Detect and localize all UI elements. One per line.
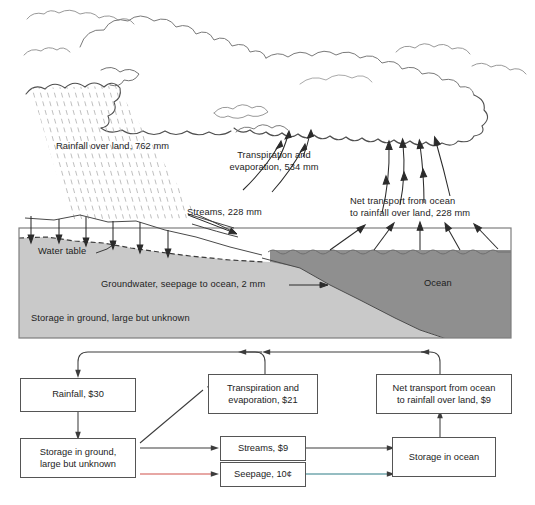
flow-box-net-transport-label: Net transport from ocean to rainfall ove…	[377, 383, 511, 407]
flow-box-transpiration-evaporation-label: Transpiration and evaporation, $21	[209, 383, 317, 407]
arrow-storage-to-transp	[140, 390, 203, 443]
flow-box-seepage-label: Seepage, 10¢	[221, 469, 305, 481]
flow-box-transpiration-evaporation[interactable]: Transpiration and evaporation, $21	[208, 374, 318, 414]
flow-box-rainfall[interactable]: Rainfall, $30	[20, 378, 136, 412]
flow-box-streams[interactable]: Streams, $9	[220, 436, 306, 461]
flow-box-storage-in-ground[interactable]: Storage in ground, large but unknown	[20, 438, 136, 478]
flow-box-storage-in-ocean[interactable]: Storage in ocean	[392, 437, 496, 477]
flow-diagram-svg	[0, 0, 535, 505]
flow-box-storage-in-ocean-label: Storage in ocean	[393, 452, 495, 464]
flow-box-streams-label: Streams, $9	[221, 443, 305, 455]
hydrologic-cycle-figure: Rainfall over land, 762 mm Transpiration…	[0, 0, 535, 505]
flow-box-seepage[interactable]: Seepage, 10¢	[220, 462, 306, 487]
flow-box-net-transport[interactable]: Net transport from ocean to rainfall ove…	[376, 374, 512, 414]
flow-box-rainfall-label: Rainfall, $30	[21, 389, 135, 401]
flow-box-storage-in-ground-label: Storage in ground, large but unknown	[21, 447, 135, 471]
arrow-to-rainfall	[78, 352, 240, 374]
